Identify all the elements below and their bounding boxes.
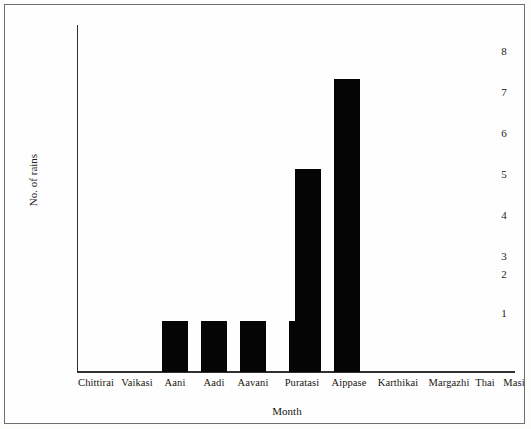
y-tick-label-7: 7 xyxy=(489,86,507,98)
x-tick-label-vaikasi: Vaikasi xyxy=(121,377,153,388)
y-axis-line xyxy=(77,25,78,372)
x-tick-label-aani: Aani xyxy=(165,377,186,388)
x-tick-label-margazhi: Margazhi xyxy=(429,377,470,388)
bar-aadi xyxy=(201,321,227,372)
bar-karthikai xyxy=(334,79,360,372)
y-axis-title: No. of rains xyxy=(27,154,39,206)
y-tick-label-8: 8 xyxy=(489,45,507,57)
x-tick-label-chittirai: Chittirai xyxy=(78,377,114,388)
x-tick-label-puratasi: Puratasi xyxy=(285,377,320,388)
y-tick-label-4: 4 xyxy=(489,209,507,221)
bar-aippase-display xyxy=(295,169,321,372)
x-tick-label-karthikai: Karthikai xyxy=(378,377,419,388)
y-tick-label-1: 1 xyxy=(489,307,507,319)
x-tick-label-thai: Thai xyxy=(475,377,495,388)
bar-aavani xyxy=(240,321,266,372)
bar-aani xyxy=(162,321,188,372)
y-tick-label-5: 5 xyxy=(489,168,507,180)
y-tick-label-2: 2 xyxy=(489,268,507,280)
x-tick-label-masi: Masi xyxy=(503,377,524,388)
plot-area: 8 7 6 5 4 3 2 1 xyxy=(77,25,515,372)
x-tick-label-aavani: Aavani xyxy=(238,377,269,388)
y-tick-label-6: 6 xyxy=(489,127,507,139)
figure-frame: 8 7 6 5 4 3 2 1 xyxy=(4,4,525,424)
chart-page: 8 7 6 5 4 3 2 1 xyxy=(0,0,531,429)
x-tick-label-aadi: Aadi xyxy=(204,377,225,388)
x-axis-title: Month xyxy=(272,405,301,417)
x-tick-label-aippase: Aippase xyxy=(331,377,366,388)
y-tick-label-3: 3 xyxy=(489,250,507,262)
